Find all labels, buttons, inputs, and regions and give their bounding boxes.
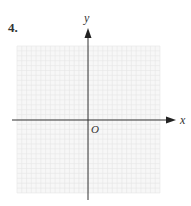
origin-label: O: [91, 123, 99, 135]
x-axis-label: x: [179, 113, 186, 127]
x-axis-arrow-icon: [166, 117, 176, 124]
y-axis-arrow-icon: [85, 28, 92, 38]
coordinate-plane: x y O: [0, 0, 191, 206]
y-axis-label: y: [83, 11, 90, 25]
